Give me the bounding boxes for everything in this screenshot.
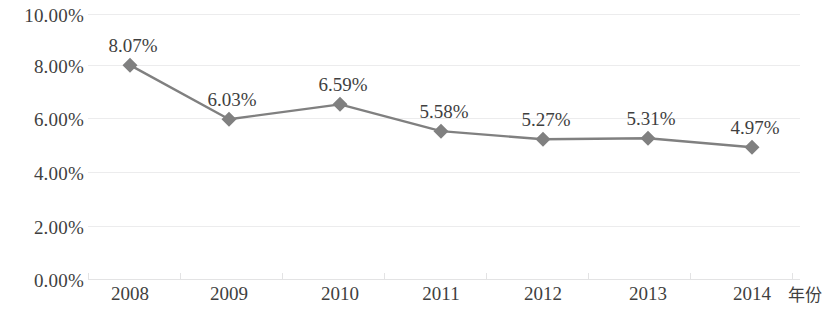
y-axis: 10.00% 8.00% 6.00% 4.00% 2.00% 0.00% (0, 0, 84, 311)
y-tick-label: 0.00% (0, 271, 84, 290)
x-axis-title: 年份 (788, 285, 822, 306)
data-point-marker (123, 58, 138, 73)
plot-area: 8.07% 6.03% 6.59% 5.58% 5.27% 5.31% 4.97… (88, 0, 800, 311)
x-tick-label: 2011 (422, 283, 459, 304)
data-point-marker (745, 140, 760, 155)
data-point-label: 5.58% (419, 102, 468, 121)
data-point-label: 6.59% (318, 75, 367, 94)
y-tick-label: 6.00% (0, 110, 84, 129)
data-point-label: 5.31% (626, 109, 675, 128)
x-tick-label: 2009 (210, 283, 248, 304)
data-series (88, 0, 800, 311)
x-tick-label: 2008 (111, 283, 149, 304)
data-point-label: 4.97% (730, 118, 779, 137)
data-point-marker (641, 131, 656, 146)
x-tick-label: 2010 (321, 283, 359, 304)
data-point-marker (222, 112, 237, 127)
x-tick-label: 2012 (524, 283, 562, 304)
data-point-marker (536, 132, 551, 147)
data-point-label: 8.07% (108, 36, 157, 55)
data-point-label: 5.27% (521, 110, 570, 129)
y-tick-label: 10.00% (0, 6, 84, 25)
x-tick-label: 2014 (733, 283, 771, 304)
data-point-marker (333, 97, 348, 112)
data-point-label: 6.03% (207, 90, 256, 109)
data-point-marker (434, 124, 449, 139)
y-tick-label: 2.00% (0, 218, 84, 237)
y-tick-label: 8.00% (0, 57, 84, 76)
y-tick-label: 4.00% (0, 164, 84, 183)
x-tick-label: 2013 (629, 283, 667, 304)
